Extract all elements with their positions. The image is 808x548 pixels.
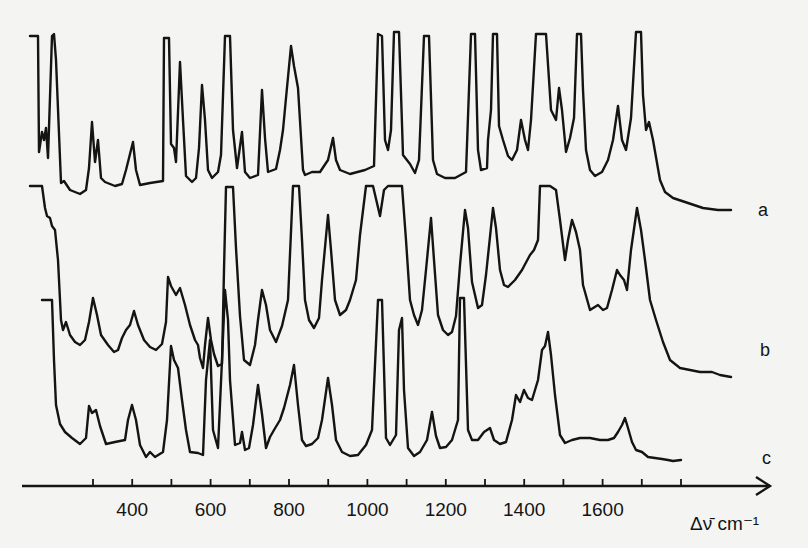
- x-tick-label: 600: [195, 499, 227, 520]
- spectrum-trace-b: [30, 186, 731, 377]
- x-tick-label: 1400: [503, 499, 545, 520]
- x-tick-label: 1200: [425, 499, 467, 520]
- spectrum-trace-a: [30, 32, 731, 210]
- spectra-traces: [30, 32, 731, 461]
- series-label-b: b: [760, 340, 770, 360]
- spectrum-trace-c: [42, 290, 681, 461]
- x-axis: 4006008001000120014001600 Δν̄ cm⁻¹: [22, 477, 770, 534]
- x-axis-tick-labels: 4006008001000120014001600: [116, 499, 623, 520]
- x-tick-label: 1600: [581, 499, 623, 520]
- x-tick-label: 800: [273, 499, 305, 520]
- x-axis-label: Δν̄ cm⁻¹: [690, 513, 759, 534]
- x-tick-label: 1000: [346, 499, 388, 520]
- raman-spectra-chart: 4006008001000120014001600 Δν̄ cm⁻¹ a b c: [0, 0, 808, 548]
- x-tick-label: 400: [116, 499, 148, 520]
- series-label-a: a: [758, 200, 769, 220]
- series-label-c: c: [762, 448, 771, 468]
